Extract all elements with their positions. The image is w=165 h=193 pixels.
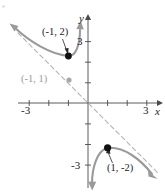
x-axis-label: x: [155, 106, 160, 117]
lower-branch-start-arrow: [88, 182, 96, 191]
point-vertex-lower: [104, 144, 111, 151]
x-tick-label-neg3: -3: [21, 105, 30, 116]
annotation-label-upper-point: (-1, 2): [42, 27, 68, 38]
annotation-label-lower-point: (1, -2): [107, 163, 133, 174]
coordinate-plane-svg: [0, 0, 165, 193]
graph-figure: (-1, 2) (-1, 1) (1, -2) -3 3 3 -3 x y: [0, 0, 165, 193]
x-tick-label-pos3: 3: [143, 105, 149, 116]
corner-mark-icon: [2, 5, 4, 7]
point-vertex-upper: [65, 53, 72, 60]
annotation-label-muted-point: (-1, 1): [21, 74, 47, 85]
y-axis-label: y: [79, 13, 84, 24]
annotation-leader-upper: [63, 39, 69, 55]
y-tick-label-pos3: 3: [77, 36, 83, 47]
y-tick-label-neg3: -3: [71, 160, 80, 171]
point-muted: [66, 77, 71, 82]
